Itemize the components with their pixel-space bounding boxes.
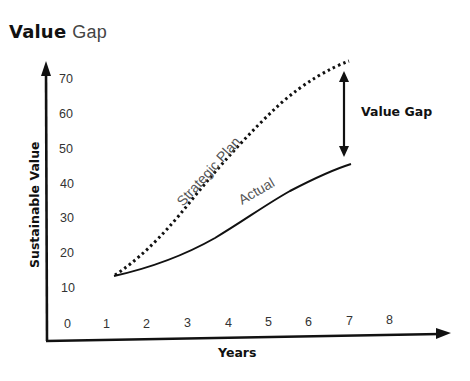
y-tick: 40 xyxy=(60,177,74,191)
value-gap-label: Value Gap xyxy=(361,104,432,119)
y-tick: 60 xyxy=(59,107,73,121)
x-tick: 6 xyxy=(305,315,312,329)
x-tick: 4 xyxy=(225,316,232,330)
x-axis-label: Years xyxy=(217,345,256,360)
x-tick-labels: 0 1 2 3 4 5 6 7 8 xyxy=(64,313,393,331)
strategic-plan-curve xyxy=(115,61,349,275)
y-tick: 70 xyxy=(59,72,73,86)
value-gap-arrow-down-icon xyxy=(339,146,349,157)
x-tick: 7 xyxy=(346,314,353,328)
y-tick-labels: 70 60 50 40 30 20 10 xyxy=(59,72,75,295)
value-gap-arrow-up-icon xyxy=(339,71,349,82)
y-axis-arrow-icon xyxy=(41,61,51,76)
x-tick: 0 xyxy=(64,317,71,331)
y-tick: 20 xyxy=(60,246,74,260)
x-axis-arrow-icon xyxy=(436,328,451,339)
strategic-plan-label: Strategic Plan xyxy=(173,134,243,209)
y-axis xyxy=(46,70,47,341)
y-tick: 30 xyxy=(60,211,74,225)
x-tick: 5 xyxy=(265,315,272,329)
actual-curve xyxy=(114,164,351,276)
x-tick: 8 xyxy=(386,313,393,327)
value-gap-chart: 70 60 50 40 30 20 10 0 1 2 3 4 5 6 7 8 Y… xyxy=(0,0,470,381)
x-tick: 3 xyxy=(184,316,191,330)
x-tick: 1 xyxy=(103,317,110,331)
x-axis xyxy=(46,334,440,341)
y-axis-label: Sustainable Value xyxy=(27,141,42,268)
x-tick: 2 xyxy=(143,317,150,331)
y-tick: 10 xyxy=(61,281,75,295)
y-tick: 50 xyxy=(59,142,73,156)
